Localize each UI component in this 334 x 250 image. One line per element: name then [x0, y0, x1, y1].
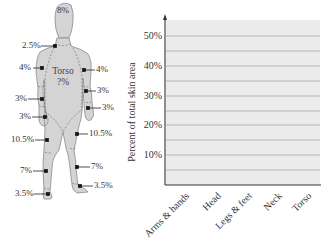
y-axis-arrow-icon	[163, 14, 167, 20]
y-tick-50: 50%	[140, 31, 162, 41]
y-tick-10: 10%	[140, 150, 162, 160]
y-tick-40: 40%	[140, 61, 162, 71]
y-tick-20: 20%	[140, 120, 162, 130]
y-axis-label: Percent of total skin area	[126, 62, 137, 161]
y-tick-30: 30%	[140, 91, 162, 101]
plot-area	[166, 20, 320, 185]
